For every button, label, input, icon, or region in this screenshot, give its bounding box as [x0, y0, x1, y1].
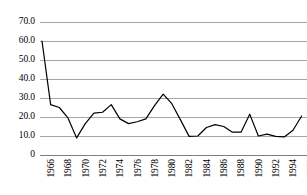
- y-tick-label: 70.0: [19, 17, 35, 27]
- x-tick-label: 1988: [236, 159, 246, 178]
- y-tick-label: 20.0: [19, 112, 35, 122]
- x-tick-label: 1978: [150, 159, 160, 178]
- y-tick-label: 40.0: [19, 74, 35, 84]
- line-chart: 010.020.030.040.050.060.070.0 1966196819…: [0, 0, 307, 195]
- y-axis: 010.020.030.040.050.060.070.0: [0, 0, 38, 195]
- y-tick-label: 10.0: [19, 131, 35, 141]
- y-tick-label: 60.0: [19, 36, 35, 46]
- x-tick-label: 1992: [271, 159, 281, 178]
- x-tick-label: 1990: [254, 159, 264, 178]
- x-tick-label: 1974: [115, 159, 125, 178]
- y-tick-label: 30.0: [19, 93, 35, 103]
- x-tick-label: 1966: [46, 159, 56, 178]
- x-axis: 1966196819701972197419761978198019821984…: [40, 157, 307, 195]
- x-tick-label: 1996: [306, 159, 307, 178]
- x-tick-label: 1994: [288, 159, 298, 178]
- x-tick-label: 1980: [167, 159, 177, 178]
- x-tick-label: 1968: [63, 159, 73, 178]
- y-tick-label: 50.0: [19, 55, 35, 65]
- x-tick-label: 1976: [133, 159, 143, 178]
- x-tick-label: 1970: [81, 159, 91, 178]
- x-tick-label: 1982: [184, 159, 194, 178]
- y-tick-label: 0: [30, 150, 35, 160]
- x-tick-label: 1972: [98, 159, 108, 178]
- x-tick-label: 1986: [219, 159, 229, 178]
- x-tick-label: 1984: [202, 159, 212, 178]
